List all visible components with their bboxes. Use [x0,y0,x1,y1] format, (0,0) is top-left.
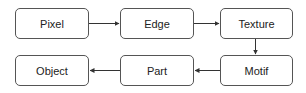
node-pixel: Pixel [15,8,89,39]
node-label: Object [36,65,68,77]
node-label: Edge [144,18,170,30]
node-motif: Motif [220,55,293,86]
node-label: Part [147,65,167,77]
node-texture: Texture [220,8,293,39]
node-edge: Edge [120,8,194,39]
node-label: Texture [238,18,274,30]
node-object: Object [15,55,89,86]
node-part: Part [120,55,194,86]
node-label: Motif [245,65,269,77]
node-label: Pixel [40,18,64,30]
